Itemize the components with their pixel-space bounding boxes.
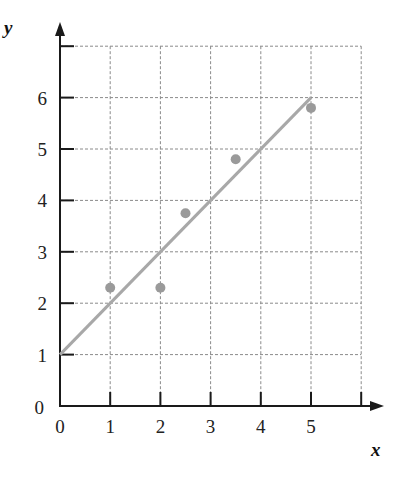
fitted-line	[60, 98, 311, 355]
y-tick-label: 2	[38, 293, 48, 314]
x-tick-label: 5	[306, 416, 316, 437]
x-tick-label: 3	[206, 416, 216, 437]
grid	[60, 46, 361, 406]
y-tick-label: 4	[38, 190, 48, 211]
axes	[55, 22, 384, 411]
data-point	[155, 283, 165, 293]
data-point	[306, 103, 316, 113]
y-axis-arrow-icon	[55, 22, 65, 36]
y-tick-label: 1	[38, 345, 48, 366]
x-tick-label: 4	[256, 416, 266, 437]
x-axis-label: x	[370, 439, 381, 460]
data-point	[105, 283, 115, 293]
y-tick-label: 3	[38, 242, 48, 263]
y-tick-label: 0	[35, 397, 45, 418]
x-tick-label: 1	[105, 416, 115, 437]
y-tick-label: 5	[38, 139, 48, 160]
x-tick-label: 0	[55, 416, 65, 437]
data-point	[181, 208, 191, 218]
y-tick-label: 6	[38, 88, 48, 109]
fit-line	[60, 98, 311, 355]
x-axis-arrow-icon	[370, 401, 384, 411]
scatter-chart: 0123450123456 y x	[0, 0, 415, 481]
y-axis-label: y	[2, 17, 13, 38]
tick-labels: 0123450123456	[35, 88, 316, 437]
data-point	[231, 154, 241, 164]
x-tick-label: 2	[156, 416, 166, 437]
